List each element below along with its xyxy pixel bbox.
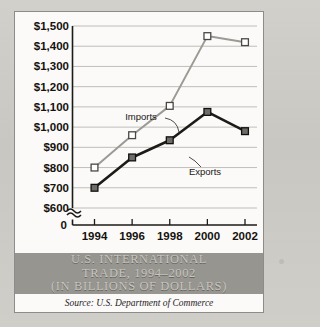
y-tick-label: $1,400 xyxy=(34,40,69,52)
gridlines xyxy=(73,26,258,208)
data-point-imports-1998 xyxy=(166,102,173,109)
y-tick-label: $900 xyxy=(43,141,69,153)
series-label-imports: Imports xyxy=(125,111,157,122)
y-tick-label: $600 xyxy=(43,202,69,214)
line-chart: $600$700$800$900$1,000$1,100$1,200$1,300… xyxy=(15,12,265,253)
y-tick-label: $800 xyxy=(43,162,69,174)
x-tick-label: 1998 xyxy=(157,230,183,242)
x-tick-label: 1994 xyxy=(82,230,108,242)
axis-break-icon xyxy=(67,209,81,217)
data-point-exports-1998 xyxy=(166,137,173,144)
y-tick-label: $1,300 xyxy=(34,60,69,72)
title-band: U.S. INTERNATIONAL TRADE, 1994–2002 (IN … xyxy=(15,253,263,294)
y-tick-label: $1,200 xyxy=(34,81,69,93)
imports-leader-line xyxy=(165,118,179,132)
source-note: Source: U.S. Department of Commerce xyxy=(65,298,214,308)
title-line-3: (IN BILLIONS OF DOLLARS) xyxy=(51,280,227,294)
y-tick-label: $1,500 xyxy=(34,20,69,32)
chart-figure: $600$700$800$900$1,000$1,100$1,200$1,300… xyxy=(14,11,264,313)
x-axis-tick-labels: 19941996199820002002 xyxy=(82,230,258,242)
data-point-imports-2000 xyxy=(204,33,211,40)
x-tick-label: 2002 xyxy=(232,230,258,242)
y-axis-tick-labels: $600$700$800$900$1,000$1,100$1,200$1,300… xyxy=(34,20,69,214)
series-label-exports: Exports xyxy=(189,166,221,177)
data-point-exports-2002 xyxy=(242,128,249,135)
data-point-imports-2002 xyxy=(242,39,249,46)
x-tick-marks xyxy=(95,219,246,225)
y-tick-label: $700 xyxy=(43,182,69,194)
x-tick-label: 2000 xyxy=(195,230,221,242)
origin-tick-label: 0 xyxy=(61,219,67,231)
y-tick-label: $1,000 xyxy=(34,121,69,133)
data-point-exports-1996 xyxy=(129,154,136,161)
data-point-imports-1994 xyxy=(91,164,98,171)
title-line-1: U.S. INTERNATIONAL xyxy=(71,253,207,267)
data-point-imports-1996 xyxy=(129,132,136,139)
series-line-exports xyxy=(95,112,246,188)
title-line-2: TRADE, 1994–2002 xyxy=(82,267,196,281)
x-tick-label: 1996 xyxy=(119,230,145,242)
data-point-exports-1994 xyxy=(91,184,98,191)
source-bar: Source: U.S. Department of Commerce xyxy=(15,294,263,312)
y-tick-label: $1,100 xyxy=(34,101,69,113)
data-point-exports-2000 xyxy=(204,109,211,116)
plot-area: $600$700$800$900$1,000$1,100$1,200$1,300… xyxy=(15,12,263,253)
